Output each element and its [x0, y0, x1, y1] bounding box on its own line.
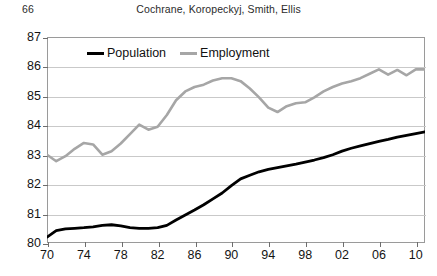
- legend-swatch-population-icon: [87, 52, 104, 55]
- legend-entry-population: Population: [87, 46, 166, 60]
- x-axis-tick-label: 78: [106, 248, 136, 262]
- x-axis-tick-label: 98: [290, 248, 320, 262]
- legend-swatch-employment-icon: [180, 52, 197, 55]
- running-title: Cochrane, Koropeckyj, Smith, Ellis: [0, 3, 437, 15]
- x-axis-tick-label: 94: [253, 248, 283, 262]
- x-axis-tick-label: 90: [216, 248, 246, 262]
- x-axis-tick-label: 86: [180, 248, 210, 262]
- chart-legend: Population Employment: [84, 45, 273, 61]
- x-axis-tick-label: 02: [327, 248, 357, 262]
- x-axis-tick-label: 74: [69, 248, 99, 262]
- legend-entry-employment: Employment: [180, 46, 269, 60]
- legend-label-employment: Employment: [200, 46, 269, 60]
- x-axis-tick-label: 06: [364, 248, 394, 262]
- page-running-head: 66 Cochrane, Koropeckyj, Smith, Ellis: [0, 0, 437, 22]
- line-chart-figure: 8081828384858687 7074788286909498020610 …: [0, 22, 437, 276]
- x-axis-tick-label: 10: [401, 248, 431, 262]
- legend-label-population: Population: [107, 46, 166, 60]
- x-axis-tick-label: 82: [143, 248, 173, 262]
- x-axis-tick-label: 70: [32, 248, 62, 262]
